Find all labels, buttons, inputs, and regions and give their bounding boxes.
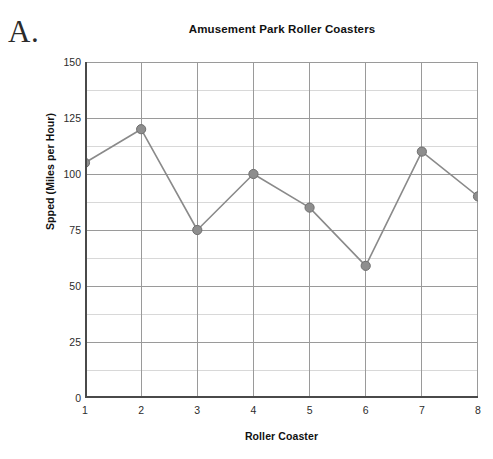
y-axis-title: Spped (Miles per Hour) (44, 113, 56, 230)
data-point (417, 147, 426, 156)
x-axis-title: Roller Coaster (85, 430, 478, 442)
x-axis-tick-label: 8 (463, 404, 493, 416)
data-point (193, 225, 202, 234)
data-point (137, 125, 146, 134)
x-axis-tick-label: 3 (182, 404, 212, 416)
chart-title: Amusement Park Roller Coasters (85, 23, 479, 35)
data-point (305, 203, 314, 212)
x-axis-tick-label: 5 (295, 404, 325, 416)
x-axis-tick-label: 6 (351, 404, 381, 416)
y-axis-tick-label: 50 (41, 280, 81, 292)
x-axis-tick-label: 4 (238, 404, 268, 416)
y-axis-tick-labels: 0255075100125150 (35, 62, 81, 398)
y-axis-tick-label: 150 (41, 56, 81, 68)
y-axis-tick-label: 25 (41, 336, 81, 348)
y-axis-tick-label: 0 (41, 392, 81, 404)
data-point (473, 192, 478, 201)
x-axis-tick-label: 7 (407, 404, 437, 416)
data-point (249, 169, 258, 178)
data-point (361, 261, 370, 270)
x-axis-tick-label: 1 (70, 404, 100, 416)
line-chart-figure: Amusement Park Roller Coasters 025507510… (0, 0, 493, 459)
horizontal-gridlines (85, 62, 478, 398)
plot-svg (85, 62, 478, 398)
plot-area (85, 62, 478, 398)
x-axis-tick-labels: 12345678 (85, 404, 478, 422)
x-axis-tick-label: 2 (126, 404, 156, 416)
